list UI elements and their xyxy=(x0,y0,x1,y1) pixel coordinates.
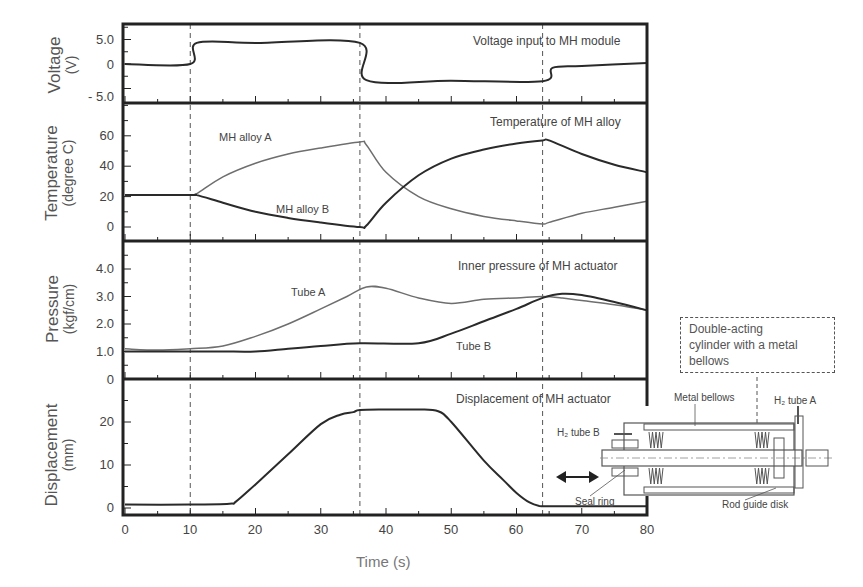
metal-bellows-icon xyxy=(755,468,769,484)
ytick: 0 xyxy=(78,372,114,387)
pressure-panel-title: Inner pressure of MH actuator xyxy=(458,259,617,273)
xtick: 80 xyxy=(632,522,662,537)
series-line-displacement xyxy=(125,409,647,506)
rod-guide-disk-label: Rod guide disk xyxy=(722,499,788,510)
series-line-tube-b xyxy=(125,294,647,352)
mh-alloy-b-label: MH alloy B xyxy=(276,203,329,215)
ytick: 0 xyxy=(78,219,114,234)
xtick: 10 xyxy=(175,522,205,537)
ytick: 4.0 xyxy=(78,261,114,276)
ytick: 20 xyxy=(78,414,114,429)
inset-caption-box: Double-acting cylinder with a metal bell… xyxy=(680,317,835,373)
ytick: 20 xyxy=(78,189,114,204)
ytick: - 5.0 xyxy=(78,89,114,104)
ytick: 5.0 xyxy=(78,32,114,47)
pressure-ylabel: Pressure(kgf/cm) xyxy=(44,259,78,359)
series-line-tube-a xyxy=(125,286,647,350)
ytick: 40 xyxy=(78,158,114,173)
h2-tube-b-label: H₂ tube B xyxy=(557,427,600,438)
ytick: 10 xyxy=(78,457,114,472)
xtick: 40 xyxy=(371,522,401,537)
ytick: 1.0 xyxy=(78,344,114,359)
mh-alloy-a-label: MH alloy A xyxy=(219,131,272,143)
seal-ring-icon xyxy=(612,468,638,476)
seal-ring-icon xyxy=(612,440,638,448)
series-line-mh-alloy-b xyxy=(125,139,647,228)
ytick: 0 xyxy=(78,500,114,515)
xtick: 30 xyxy=(306,522,336,537)
displacement-panel-title: Displacement of MH actuator xyxy=(456,392,611,406)
tube-b-label: Tube B xyxy=(456,340,491,352)
cylinder-top-wall xyxy=(644,424,794,430)
voltage-panel-title: Voltage input to MH module xyxy=(473,34,620,48)
xtick: 60 xyxy=(501,522,531,537)
voltage-ylabel: Voltage(V) xyxy=(46,20,80,110)
ytick: 60 xyxy=(78,128,114,143)
series-line-mh-alloy-a xyxy=(125,141,647,224)
temperature-ylabel: Temperature(degree C) xyxy=(43,103,77,243)
tube-a-label: Tube A xyxy=(291,286,325,298)
xtick: 0 xyxy=(110,522,140,537)
ytick: 0 xyxy=(78,57,114,72)
ytick: 2.0 xyxy=(78,316,114,331)
h2-tube-a-label: H₂ tube A xyxy=(774,395,816,406)
seal-ring-pointer xyxy=(590,470,625,496)
arrow-right-head-icon xyxy=(589,471,599,483)
displacement-ylabel: Displacement(mm) xyxy=(43,387,77,523)
xtick: 50 xyxy=(436,522,466,537)
xtick: 70 xyxy=(567,522,597,537)
ytick: 3.0 xyxy=(78,289,114,304)
temperature-panel-title: Temperature of MH alloy xyxy=(490,115,621,129)
xtick: 20 xyxy=(240,522,270,537)
seal-ring-label: Seal ring xyxy=(575,496,614,507)
arrow-left-head-icon xyxy=(556,471,566,483)
metal-bellows-icon xyxy=(755,432,769,448)
metal-bellows-label: Metal bellows xyxy=(674,392,735,403)
x-axis-label: Time (s) xyxy=(356,553,410,570)
